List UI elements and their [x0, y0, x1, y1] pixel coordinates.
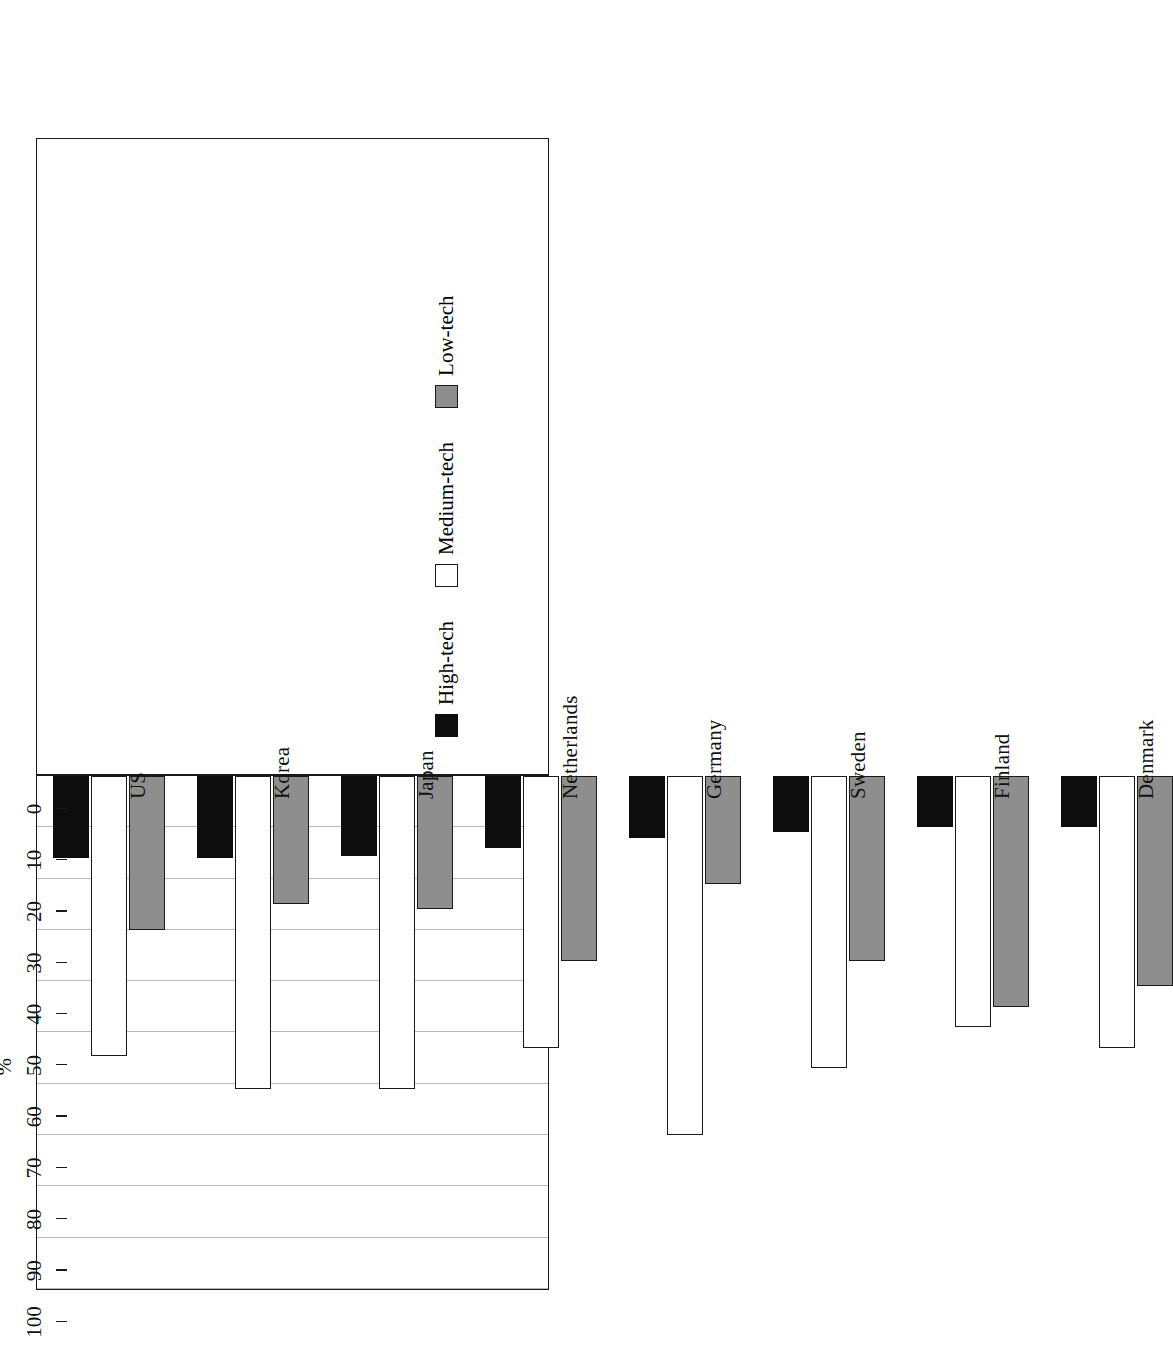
category-label-denmark: Denmark	[1134, 649, 1159, 799]
gridline	[37, 1185, 548, 1186]
value-tick-mark	[56, 1269, 67, 1270]
category-label-us: US	[126, 649, 151, 799]
bar-low-tech-netherlands	[561, 776, 597, 961]
bar-high-tech-sweden	[773, 776, 809, 832]
bar-medium-tech-denmark	[1099, 776, 1135, 1048]
bar-medium-tech-korea	[235, 776, 271, 1089]
chart-legend: High-techMedium-techLow-tech	[434, 295, 459, 737]
category-label-korea: Korea	[270, 649, 295, 799]
bar-high-tech-finland	[917, 776, 953, 827]
value-tick-mark	[56, 1064, 67, 1065]
value-tick-mark	[56, 962, 67, 963]
bar-high-tech-germany	[629, 776, 665, 838]
category-label-germany: Germany	[702, 649, 727, 799]
gridline	[37, 1288, 548, 1289]
bar-medium-tech-finland	[955, 776, 991, 1027]
bar-high-tech-denmark	[1061, 776, 1097, 827]
value-tick-mark	[56, 1218, 67, 1219]
category-label-sweden: Sweden	[846, 649, 871, 799]
legend-entry-high-tech: High-tech	[434, 621, 459, 737]
legend-label: Low-tech	[434, 295, 459, 375]
legend-label: Medium-tech	[434, 442, 459, 555]
value-axis-title: %	[0, 1058, 17, 1076]
bar-medium-tech-netherlands	[523, 776, 559, 1048]
gridline	[37, 1134, 548, 1135]
value-tick-mark	[56, 1013, 67, 1014]
white-square-icon	[435, 564, 458, 587]
legend-label: High-tech	[434, 621, 459, 705]
value-tick-mark	[56, 910, 67, 911]
value-tick-mark	[56, 808, 67, 809]
black-square-icon	[435, 714, 458, 737]
bar-high-tech-japan	[341, 776, 377, 856]
gray-square-icon	[435, 385, 458, 408]
bar-medium-tech-us	[91, 776, 127, 1056]
bar-high-tech-netherlands	[485, 776, 521, 848]
value-tick-mark	[56, 1167, 67, 1168]
bar-medium-tech-japan	[379, 776, 415, 1089]
bar-low-tech-finland	[993, 776, 1029, 1007]
bar-low-tech-denmark	[1137, 776, 1173, 986]
bar-high-tech-us	[53, 776, 89, 858]
value-tick-mark	[56, 1321, 67, 1322]
gridline	[37, 1237, 548, 1238]
legend-entry-low-tech: Low-tech	[434, 295, 459, 407]
value-tick-label: 100	[22, 1292, 47, 1352]
legend-entry-medium-tech: Medium-tech	[434, 442, 459, 587]
bar-low-tech-us	[129, 776, 165, 930]
value-tick-mark	[56, 859, 67, 860]
bar-low-tech-sweden	[849, 776, 885, 961]
gridline	[37, 1083, 548, 1084]
value-tick-mark	[56, 1115, 67, 1116]
category-label-netherlands: Netherlands	[558, 649, 583, 799]
bar-medium-tech-sweden	[811, 776, 847, 1068]
bar-high-tech-korea	[197, 776, 233, 858]
category-label-finland: Finland	[990, 649, 1015, 799]
bar-medium-tech-germany	[667, 776, 703, 1135]
